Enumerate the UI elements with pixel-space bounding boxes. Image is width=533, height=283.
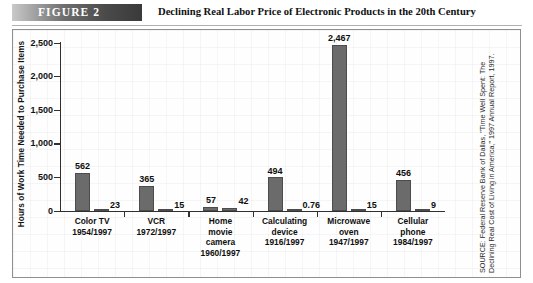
- y-axis-tick-label: 0: [48, 206, 53, 216]
- x-axis-group-label-line: 1984/1997: [368, 237, 458, 248]
- bar-series-1997: [158, 209, 173, 211]
- figure-tag-label: FIGURE 2: [38, 6, 100, 18]
- bar-series-1997: [351, 209, 366, 211]
- bar-value-label: 2,467: [320, 33, 359, 43]
- bar-series-intro: [268, 177, 283, 210]
- bar-value-label: 42: [238, 196, 268, 206]
- source-note-text: SOURCE: Federal Reserve Bank of Dallas, …: [478, 35, 497, 273]
- bar-value-label: 494: [256, 166, 295, 176]
- y-axis-tick-label: 1,000: [30, 138, 53, 148]
- y-axis-tick: [54, 211, 61, 212]
- bar-value-label: 365: [127, 174, 166, 184]
- y-axis-line: [60, 42, 61, 212]
- y-axis-tick: [54, 110, 61, 111]
- figure-panel: FIGURE 2 Declining Real Labor Price of E…: [0, 0, 533, 283]
- bar-value-label: 57: [191, 195, 230, 205]
- y-axis-title-text: Hours of Work Time Needed to Purchase It…: [17, 41, 26, 227]
- bar-series-intro: [139, 186, 154, 211]
- y-axis-tick: [54, 143, 61, 144]
- bar-series-intro: [75, 173, 90, 211]
- plot-area: 05001,0001,5002,0002,5005622336515574249…: [60, 42, 445, 212]
- y-axis-tick-label: 1,500: [30, 105, 53, 115]
- x-axis-group-label-line: Cellular: [368, 216, 458, 227]
- bar-value-label: 15: [367, 200, 397, 210]
- bar-series-intro: [396, 180, 411, 211]
- bar-value-label: 562: [63, 161, 102, 171]
- x-axis-group-label: Cellularphone1984/1997: [368, 216, 458, 248]
- bar-value-label: 0.76: [303, 200, 333, 210]
- y-axis-tick: [54, 177, 61, 178]
- x-axis-group-label-line: 1960/1997: [175, 248, 265, 259]
- header-divider: [12, 25, 522, 26]
- figure-title: Declining Real Labor Price of Electronic…: [158, 6, 476, 17]
- bar-value-label: 23: [110, 200, 140, 210]
- bar-value-label: 9: [431, 200, 461, 210]
- bar-series-intro: [203, 207, 218, 211]
- y-axis-tick: [54, 43, 61, 44]
- bar-series-intro: [332, 45, 347, 211]
- bar-series-1997: [287, 209, 302, 211]
- source-note: SOURCE: Federal Reserve Bank of Dallas, …: [458, 33, 516, 275]
- bar-series-1997: [222, 208, 237, 211]
- bar-series-1997: [415, 209, 430, 211]
- y-axis-tick: [54, 76, 61, 77]
- bar-series-1997: [94, 209, 109, 211]
- y-axis-tick-label: 2,500: [30, 38, 53, 48]
- y-axis-title: Hours of Work Time Needed to Purchase It…: [14, 34, 28, 234]
- bar-value-label: 456: [384, 168, 423, 178]
- y-axis-tick-label: 2,000: [30, 71, 53, 81]
- y-axis-tick-label: 500: [38, 172, 53, 182]
- figure-header: FIGURE 2 Declining Real Labor Price of E…: [12, 4, 522, 24]
- x-axis-group-label-line: phone: [368, 227, 458, 238]
